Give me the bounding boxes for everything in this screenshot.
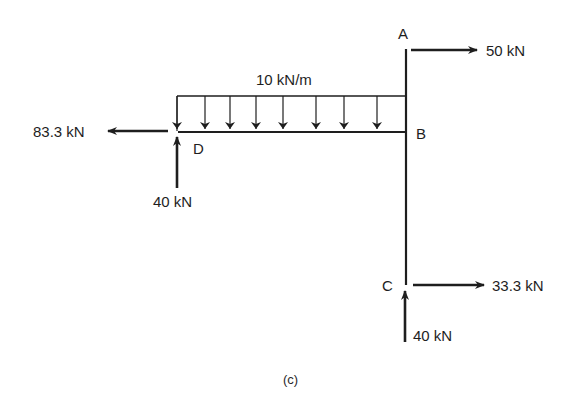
figure-caption: (c) [283, 372, 298, 387]
force-label-d-up: 40 kN [153, 193, 192, 210]
force-label-c-up: 40 kN [413, 327, 452, 344]
force-label-d-left: 83.3 kN [33, 123, 85, 140]
node-label-a: A [398, 25, 408, 42]
node-label-d: D [193, 140, 204, 157]
node-label-b: B [416, 125, 426, 142]
node-label-c: C [382, 277, 393, 294]
distributed-load [177, 96, 406, 131]
force-label-c-right: 33.3 kN [492, 277, 544, 294]
distributed-load-label: 10 kN/m [256, 71, 312, 88]
free-body-diagram: A B C D 10 kN/m 50 kN 33.3 kN 40 kN 83.3… [0, 0, 587, 410]
force-label-a-right: 50 kN [486, 42, 525, 59]
